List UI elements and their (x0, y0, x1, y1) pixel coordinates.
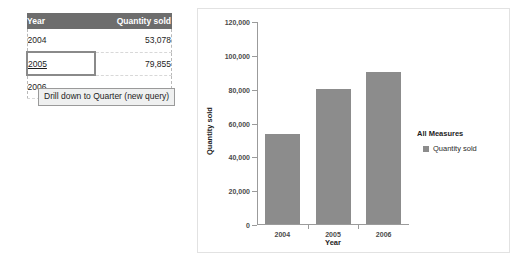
legend-title: All Measures (417, 129, 477, 138)
legend-items: Quantity sold (417, 144, 477, 153)
chart-legend: All Measures Quantity sold (417, 129, 477, 153)
report-table: Year Quantity sold 2004 53,078 2005 79,8… (26, 13, 172, 99)
y-axis-title: Quantity sold (205, 76, 214, 186)
y-tick-mark (252, 56, 257, 57)
legend-item-label: Quantity sold (433, 144, 477, 153)
x-tick-label: 2006 (376, 231, 392, 238)
bar-2005[interactable] (316, 89, 351, 224)
cell-quantity-2005: 79,855 (95, 52, 172, 75)
column-header-quantity-sold[interactable]: Quantity sold (95, 13, 172, 29)
table-row: 2005 79,855 (27, 52, 172, 75)
column-header-year[interactable]: Year (27, 13, 95, 29)
x-tick-mark (308, 225, 309, 229)
y-tick-mark (252, 157, 257, 158)
year-link-2004[interactable]: 2004 (28, 35, 47, 45)
y-tick-mark (252, 191, 257, 192)
x-tick-label: 2004 (275, 231, 291, 238)
cell-year-2004[interactable]: 2004 (27, 29, 95, 52)
bar-2006[interactable] (366, 72, 401, 224)
drill-down-tooltip: Drill down to Quarter (new query) (38, 88, 175, 106)
x-tick-label: 2005 (325, 231, 341, 238)
bar-2004[interactable] (265, 134, 300, 224)
cell-year-2005-selected[interactable]: 2005 (27, 52, 95, 75)
y-tick-mark (252, 124, 257, 125)
legend-item[interactable]: Quantity sold (417, 144, 477, 153)
plot-area: 020,00040,00060,00080,000100,000120,000 … (257, 22, 409, 225)
legend-swatch-icon (423, 146, 429, 152)
cell-quantity-2004: 53,078 (95, 29, 172, 52)
y-axis-line (257, 22, 258, 225)
x-axis-line (257, 224, 409, 225)
y-tick-mark (252, 22, 257, 23)
table-header: Year Quantity sold (27, 13, 172, 29)
table-header-row: Year Quantity sold (27, 13, 172, 29)
table-row: 2004 53,078 (27, 29, 172, 52)
y-tick-mark (252, 225, 257, 226)
y-tick-mark (252, 90, 257, 91)
x-tick-mark (358, 225, 359, 229)
year-link-2005[interactable]: 2005 (28, 59, 47, 69)
x-axis-title: Year (257, 238, 409, 247)
